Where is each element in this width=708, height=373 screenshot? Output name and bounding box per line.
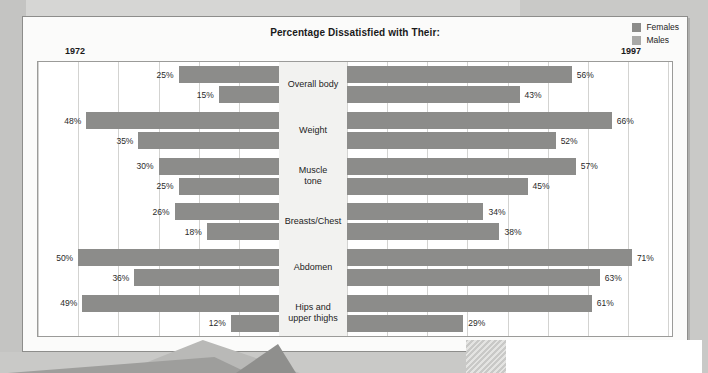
bar-females: [179, 66, 279, 83]
bar-group-females: 61%: [347, 295, 668, 312]
bar-females: [86, 112, 279, 129]
chart-title: Percentage Dissatisfied with Their:: [23, 27, 687, 38]
category-label: Abdomen: [279, 245, 347, 291]
bar-value-label: 63%: [605, 273, 622, 283]
bar-group-females: 71%: [347, 249, 668, 266]
bar-value-label: 49%: [60, 298, 77, 308]
bar-group-males: 25%: [38, 178, 279, 195]
legend-swatch-females-icon: [632, 23, 641, 32]
panel-1972: 25%15%48%35%30%25%26%18%50%36%49%12%: [38, 62, 279, 336]
bar-group-males: 36%: [38, 269, 279, 286]
category-label: Breasts/Chest: [279, 199, 347, 245]
bar-females: [175, 203, 279, 220]
bar-value-label: 34%: [488, 207, 505, 217]
bar-row: 26%18%: [38, 199, 279, 245]
bar-group-females: 66%: [347, 112, 668, 129]
bar-group-males: 15%: [38, 86, 279, 103]
bar-value-label: 61%: [597, 298, 614, 308]
bar-value-label: 71%: [637, 253, 654, 263]
bar-row: 50%36%: [38, 245, 279, 291]
year-label-left: 1972: [65, 46, 85, 56]
legend-swatch-males-icon: [632, 36, 641, 45]
bar-males: [347, 223, 499, 240]
bar-value-label: 15%: [197, 90, 214, 100]
bar-males: [138, 132, 279, 149]
category-label: Weight: [279, 108, 347, 154]
bar-group-males: 63%: [347, 269, 668, 286]
bar-males: [219, 86, 279, 103]
legend-item-females: Females: [632, 22, 679, 32]
bar-males: [347, 178, 528, 195]
chart-legend: Females Males: [632, 22, 679, 48]
category-label-column: Overall bodyWeightMuscletoneBreasts/Ches…: [279, 62, 347, 336]
bar-females: [82, 295, 279, 312]
bar-row: 30%25%: [38, 153, 279, 199]
bar-males: [207, 223, 279, 240]
bar-group-females: 30%: [38, 158, 279, 175]
category-label: Hips andupper thighs: [279, 290, 347, 336]
bar-group-females: 56%: [347, 66, 668, 83]
bar-group-males: 29%: [347, 315, 668, 332]
bar-females: [347, 295, 592, 312]
bar-rows-right: 56%43%66%52%57%45%34%38%71%63%61%29%: [347, 62, 668, 336]
bar-row: 61%29%: [347, 290, 668, 336]
bar-males: [231, 315, 279, 332]
bar-females: [159, 158, 280, 175]
bar-row: 34%38%: [347, 199, 668, 245]
bar-group-females: 50%: [38, 249, 279, 266]
bar-group-females: 49%: [38, 295, 279, 312]
bar-females: [347, 203, 483, 220]
bar-females: [347, 112, 612, 129]
bar-value-label: 45%: [533, 181, 550, 191]
bar-row: 25%15%: [38, 62, 279, 108]
bar-value-label: 56%: [577, 70, 594, 80]
bar-group-females: 34%: [347, 203, 668, 220]
bar-value-label: 38%: [504, 227, 521, 237]
bar-group-males: 43%: [347, 86, 668, 103]
bar-row: 66%52%: [347, 108, 668, 154]
bar-group-females: 26%: [38, 203, 279, 220]
bar-group-females: 57%: [347, 158, 668, 175]
bar-row: 48%35%: [38, 108, 279, 154]
legend-label-males: Males: [646, 35, 669, 45]
bar-value-label: 35%: [116, 136, 133, 146]
bar-males: [179, 178, 279, 195]
bar-males: [347, 269, 600, 286]
bar-group-males: 12%: [38, 315, 279, 332]
bar-row: 56%43%: [347, 62, 668, 108]
bar-value-label: 36%: [112, 273, 129, 283]
bar-value-label: 30%: [136, 161, 153, 171]
bar-value-label: 48%: [64, 116, 81, 126]
bar-males: [347, 315, 463, 332]
bar-males: [347, 86, 520, 103]
bar-value-label: 25%: [157, 70, 174, 80]
category-label: Muscletone: [279, 153, 347, 199]
bar-value-label: 25%: [157, 181, 174, 191]
bar-females: [347, 249, 632, 266]
bar-group-females: 48%: [38, 112, 279, 129]
legend-item-males: Males: [632, 35, 679, 45]
panel-1997: 56%43%66%52%57%45%34%38%71%63%61%29%: [347, 62, 668, 336]
bar-value-label: 57%: [581, 161, 598, 171]
page-corner-hatch: [466, 340, 506, 373]
bar-males: [134, 269, 279, 286]
bar-value-label: 50%: [56, 253, 73, 263]
bar-row: 71%63%: [347, 245, 668, 291]
bar-females: [347, 66, 572, 83]
bar-females: [78, 249, 279, 266]
bar-row: 57%45%: [347, 153, 668, 199]
gridline: [668, 62, 669, 336]
bar-value-label: 18%: [185, 227, 202, 237]
bar-value-label: 12%: [209, 318, 226, 328]
bar-group-males: 38%: [347, 223, 668, 240]
bar-value-label: 43%: [525, 90, 542, 100]
bar-group-females: 25%: [38, 66, 279, 83]
bar-value-label: 29%: [468, 318, 485, 328]
bar-group-males: 18%: [38, 223, 279, 240]
legend-label-females: Females: [646, 22, 679, 32]
bar-group-males: 45%: [347, 178, 668, 195]
plot-area: 25%15%48%35%30%25%26%18%50%36%49%12% Ove…: [37, 61, 673, 337]
bar-value-label: 52%: [561, 136, 578, 146]
bar-value-label: 26%: [153, 207, 170, 217]
bar-group-males: 52%: [347, 132, 668, 149]
